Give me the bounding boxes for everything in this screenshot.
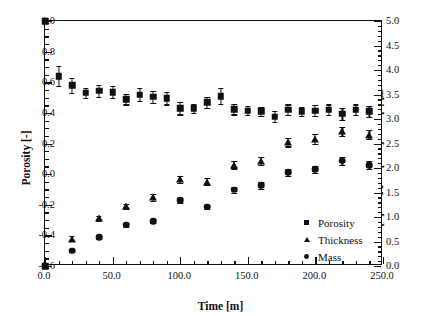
error-bar-cap: [259, 165, 264, 166]
error-bar-cap: [272, 122, 277, 123]
square-marker: [312, 107, 319, 114]
circle-marker: [231, 186, 238, 193]
circle-marker: [69, 248, 76, 255]
square-marker: [96, 87, 103, 94]
tick-label: 2.5: [386, 137, 399, 148]
error-bar-cap: [286, 104, 291, 105]
tick-label: 0.0: [37, 270, 50, 281]
error-bar-cap: [299, 116, 304, 117]
circle-marker: [150, 218, 157, 225]
error-bar-cap: [313, 116, 318, 117]
error-bar-cap: [177, 183, 182, 184]
triangle-marker: [95, 215, 103, 222]
circle-marker: [96, 234, 103, 241]
square-marker: [82, 90, 89, 97]
error-bar-cap: [353, 104, 358, 105]
square-marker: [258, 108, 265, 115]
triangle-icon: [304, 237, 310, 242]
tick-label: 50.0: [102, 270, 120, 281]
tick-label: 3.0: [386, 113, 399, 124]
tick-label: 0.6: [42, 76, 55, 87]
error-bar-cap: [110, 98, 115, 99]
triangle-marker: [257, 158, 265, 165]
error-bar-cap: [259, 189, 264, 190]
error-bar-cap: [286, 115, 291, 116]
error-bar-cap: [150, 91, 155, 92]
legend-marker: [300, 254, 313, 259]
error-bar-cap: [326, 115, 331, 116]
error-bar-cap: [340, 108, 345, 109]
error-bar-cap: [245, 115, 250, 116]
triangle-marker: [68, 235, 76, 242]
legend-label: Thickness: [318, 234, 363, 246]
error-bar-cap: [137, 101, 142, 102]
tick-label: 0.4: [42, 106, 55, 117]
tick-label: 1.0: [42, 15, 55, 26]
error-bar-cap: [340, 136, 345, 137]
square-marker: [231, 106, 238, 113]
triangle-marker: [284, 139, 292, 146]
error-bar-cap: [56, 66, 61, 67]
square-marker: [339, 110, 346, 117]
error-bar-cap: [232, 168, 237, 169]
plot-area: PorosityThicknessMass: [44, 20, 382, 265]
error-bar-cap: [367, 139, 372, 140]
error-bar-cap: [56, 86, 61, 87]
square-marker: [245, 107, 252, 114]
error-bar-cap: [96, 97, 101, 98]
error-bar-cap: [340, 120, 345, 121]
error-bar-cap: [191, 113, 196, 114]
error-bar-cap: [313, 105, 318, 106]
error-bar-cap: [150, 103, 155, 104]
tick-label: 3.5: [386, 88, 399, 99]
square-marker: [163, 95, 170, 102]
triangle-marker: [122, 203, 130, 210]
square-marker: [109, 89, 116, 96]
error-bar-cap: [286, 176, 291, 177]
error-bar-cap: [96, 85, 101, 86]
circle-marker: [312, 166, 319, 173]
error-bar-cap: [326, 104, 331, 105]
error-bar-cap: [150, 201, 155, 202]
error-bar-cap: [123, 94, 128, 95]
error-bar-cap: [177, 114, 182, 115]
error-bar-cap: [272, 111, 277, 112]
error-bar-cap: [218, 88, 223, 89]
legend-item-thickness: Thickness: [300, 231, 363, 248]
error-bar-cap: [286, 146, 291, 147]
error-bar-cap: [69, 78, 74, 79]
legend-item-mass: Mass: [300, 248, 363, 265]
circle-marker: [258, 182, 265, 189]
square-marker: [190, 105, 197, 112]
tick-label: 5.0: [386, 15, 399, 26]
error-bar-cap: [164, 104, 169, 105]
error-bar-cap: [367, 106, 372, 107]
chart-legend: PorosityThicknessMass: [300, 214, 363, 265]
triangle-marker: [176, 176, 184, 183]
error-bar-cap: [340, 165, 345, 166]
circle-marker: [285, 169, 292, 176]
tick-label: 250.0: [370, 270, 394, 281]
error-bar-cap: [110, 86, 115, 87]
square-marker: [69, 82, 76, 89]
triangle-marker: [203, 178, 211, 185]
circle-marker: [339, 157, 346, 164]
tick-label: 0.0: [386, 260, 399, 271]
error-bar-cap: [218, 104, 223, 105]
square-marker: [136, 91, 143, 98]
chart-figure: Porosity [-] Thickness [mm] or Mass [g] …: [0, 0, 441, 316]
tick-label: 150.0: [235, 270, 259, 281]
error-bar-cap: [137, 88, 142, 89]
tick-label: -0.6: [38, 260, 55, 271]
square-marker: [272, 113, 279, 120]
square-marker: [299, 108, 306, 115]
tick-label: -0.4: [38, 229, 55, 240]
triangle-marker: [338, 128, 346, 135]
circle-marker: [123, 222, 130, 229]
error-bar-cap: [205, 185, 210, 186]
error-bar-cap: [353, 115, 358, 116]
tick-label: 4.0: [386, 64, 399, 75]
circle-marker: [177, 197, 184, 204]
error-bar-cap: [177, 102, 182, 103]
error-bar-cap: [232, 104, 237, 105]
